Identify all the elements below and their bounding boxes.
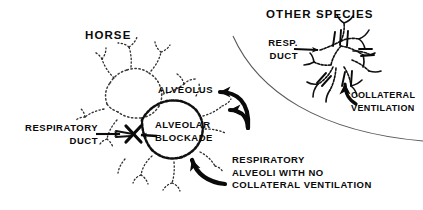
label-alveolus: ALVEOLUS <box>158 84 213 97</box>
label-respiratory-duct-other-species: RESP. DUCT <box>258 37 298 62</box>
label-alveolar-blockade: ALVEOLAR BLOCKADE <box>155 119 213 144</box>
label-no-collateral-ventilation: RESPIRATORY ALVEOLI WITH NO COLLATERAL V… <box>232 154 372 192</box>
figure-root: HORSE OTHER SPECIES RESPIRATORY DUCT ALV… <box>0 0 423 210</box>
label-collateral-ventilation: COLLATERAL VENTILATION <box>351 89 415 114</box>
label-respiratory-duct-horse: RESPIRATORY DUCT <box>6 122 98 147</box>
horse-alveolus-upper <box>106 69 162 119</box>
panel-heading-other-species: OTHER SPECIES <box>266 8 374 21</box>
no-collateral-pointer-arrow <box>192 160 225 184</box>
panel-heading-horse: HORSE <box>85 29 131 42</box>
horse-alveolar-tendrils <box>75 37 231 191</box>
